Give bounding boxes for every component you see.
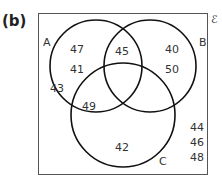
region-value: 47 [70,43,84,56]
set-b-label: B [199,36,207,49]
region-value: 41 [70,63,84,76]
universal-set-symbol: ℰ [211,13,218,26]
region-value: 40 [165,43,179,56]
set-a-label: A [43,36,51,49]
region-value: 42 [115,141,129,154]
region-value: 48 [190,151,204,164]
region-value: 43 [50,82,64,95]
set-a-circle [50,20,142,112]
region-value: 46 [190,136,204,149]
set-b-circle [104,20,196,112]
region-value: 44 [190,121,204,134]
region-value: 49 [82,100,96,113]
venn-diagram: ℰ ABC 4741434540504942444648 [0,0,222,177]
region-value: 50 [165,63,179,76]
region-value: 45 [115,45,129,58]
set-c-label: C [159,155,167,168]
